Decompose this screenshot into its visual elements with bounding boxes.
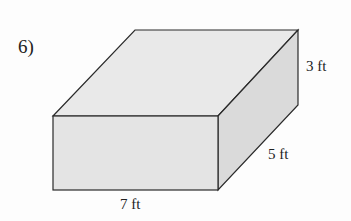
prism-diagram (0, 0, 351, 221)
height-label: 3 ft (306, 58, 326, 75)
problem-number: 6) (18, 36, 34, 58)
depth-label: 5 ft (268, 146, 288, 163)
length-label: 7 ft (120, 196, 140, 213)
prism-front-face (53, 116, 218, 190)
